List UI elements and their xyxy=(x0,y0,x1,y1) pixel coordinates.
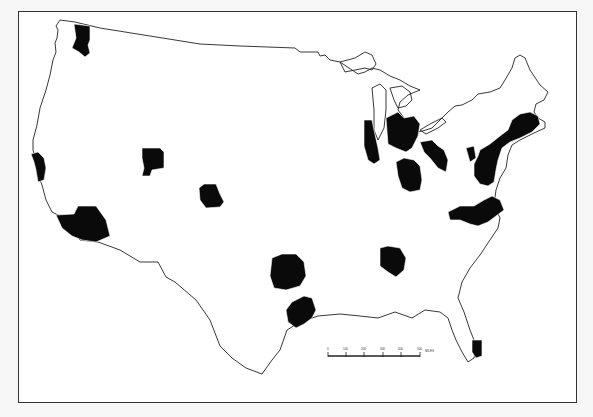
scale-tick-400: 400 xyxy=(398,347,403,351)
metro-sf xyxy=(31,152,46,182)
scale-tick-100: 100 xyxy=(343,347,348,351)
lake-erie-outline xyxy=(420,118,446,134)
metro-denver xyxy=(199,184,224,208)
metro-cincinnati xyxy=(396,158,422,192)
scale-tick-500: 500 xyxy=(417,347,422,351)
scale-tick-0: 0 xyxy=(327,347,329,351)
metro-slc xyxy=(142,148,164,176)
scale-tick-300: 300 xyxy=(380,347,385,351)
metro-detroit xyxy=(386,112,420,152)
scale-tick-200: 200 xyxy=(361,347,366,351)
scale-bar: 0 100 200 300 400 500 MILES xyxy=(327,347,434,357)
scale-unit: MILES xyxy=(425,349,434,353)
lake-huron-outline xyxy=(390,86,412,108)
metro-houston xyxy=(286,296,316,328)
metro-chicago xyxy=(364,120,380,164)
metro-pittsburgh xyxy=(420,140,448,172)
metro-la xyxy=(56,206,110,242)
us-map: 0 100 200 300 400 500 MILES xyxy=(0,0,593,417)
metro-seattle xyxy=(72,24,90,57)
metro-nc xyxy=(448,196,504,226)
metro-miami xyxy=(472,340,482,358)
metro-dallas xyxy=(270,254,306,290)
metro-atlanta xyxy=(380,246,406,277)
metro-northeast xyxy=(466,112,540,186)
